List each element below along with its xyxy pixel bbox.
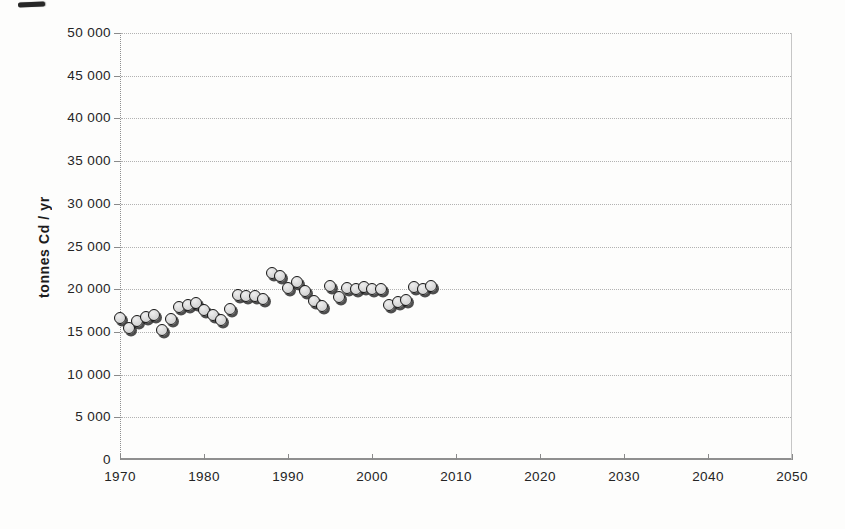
data-point-2001	[375, 283, 387, 295]
x-tick-label-2040: 2040	[678, 469, 738, 484]
x-tick-label-2050: 2050	[762, 469, 822, 484]
y-tick-mark-5000	[114, 417, 120, 418]
data-point-1995	[324, 280, 336, 292]
y-tick-mark-40000	[114, 118, 120, 119]
gridline-15000	[121, 332, 791, 333]
y-tick-mark-20000	[114, 289, 120, 290]
y-tick-label-0: 0	[28, 452, 111, 467]
y-tick-label-20000: 20 000	[28, 281, 111, 296]
data-point-1982	[215, 314, 227, 326]
data-point-1974	[148, 309, 160, 321]
x-tick-label-2000: 2000	[342, 469, 402, 484]
y-tick-label-35000: 35 000	[28, 153, 111, 168]
y-tick-label-40000: 40 000	[28, 110, 111, 125]
x-tick-label-1970: 1970	[90, 469, 150, 484]
gridline-50000	[121, 33, 791, 34]
y-tick-mark-35000	[114, 161, 120, 162]
gridline-35000	[121, 161, 791, 162]
data-point-1976	[165, 313, 177, 325]
y-tick-label-5000: 5 000	[28, 409, 111, 424]
gridline-10000	[121, 375, 791, 376]
x-tick-label-2010: 2010	[426, 469, 486, 484]
y-tick-mark-15000	[114, 332, 120, 333]
x-tick-label-1990: 1990	[258, 469, 318, 484]
y-tick-mark-45000	[114, 76, 120, 77]
data-point-1983	[224, 303, 236, 315]
x-tick-mark-2050	[792, 454, 793, 460]
y-tick-label-45000: 45 000	[28, 68, 111, 83]
x-tick-label-2030: 2030	[594, 469, 654, 484]
data-point-1975	[156, 324, 168, 336]
y-tick-mark-10000	[114, 375, 120, 376]
x-tick-mark-2040	[708, 454, 709, 460]
gridline-30000	[121, 204, 791, 205]
gridline-45000	[121, 76, 791, 77]
plot-area	[120, 33, 792, 460]
y-tick-label-30000: 30 000	[28, 196, 111, 211]
data-point-2007	[425, 280, 437, 292]
data-point-2004	[400, 294, 412, 306]
x-tick-mark-2020	[540, 454, 541, 460]
y-tick-mark-50000	[114, 33, 120, 34]
x-tick-mark-2010	[456, 454, 457, 460]
y-tick-label-50000: 50 000	[28, 25, 111, 40]
gridline-20000	[121, 289, 791, 290]
x-tick-label-1980: 1980	[174, 469, 234, 484]
gridline-40000	[121, 118, 791, 119]
x-tick-mark-1970	[120, 454, 121, 460]
data-point-1989	[274, 270, 286, 282]
x-tick-mark-2000	[372, 454, 373, 460]
x-tick-label-2020: 2020	[510, 469, 570, 484]
y-tick-label-10000: 10 000	[28, 367, 111, 382]
data-point-1994	[316, 300, 328, 312]
cadmium-production-chart: tonnes Cd / yr 05 00010 00015 00020 0002…	[0, 0, 845, 529]
y-tick-label-15000: 15 000	[28, 324, 111, 339]
y-tick-mark-30000	[114, 204, 120, 205]
y-tick-label-25000: 25 000	[28, 239, 111, 254]
gridline-25000	[121, 247, 791, 248]
y-tick-mark-25000	[114, 247, 120, 248]
x-tick-mark-1990	[288, 454, 289, 460]
data-point-1987	[257, 293, 269, 305]
x-tick-mark-2030	[624, 454, 625, 460]
gridline-5000	[121, 417, 791, 418]
scan-smudge-artifact	[18, 2, 45, 8]
x-tick-mark-1980	[204, 454, 205, 460]
